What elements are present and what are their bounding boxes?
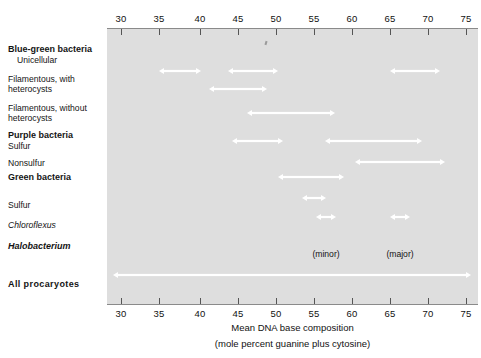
tick-label-bottom-75: 75: [451, 308, 481, 319]
range-row-filamentous-without-heterocysts: [107, 108, 478, 118]
range-arrow-chloroflexus: [306, 197, 322, 199]
range-arrow-all-procaryotes: [117, 274, 467, 276]
range-arrow-halobacterium-major: [394, 216, 406, 218]
axis-bottom-line: [107, 304, 478, 305]
category-label-column: Blue-green bacteria Unicellular Filament…: [0, 28, 107, 304]
range-arrow-purple-sulfur-1: [236, 140, 279, 142]
label-nonsulfur: Nonsulfur: [8, 158, 107, 169]
tick-bottom-35: [159, 298, 160, 304]
axis-caption-line-1: Mean DNA base composition: [107, 322, 478, 333]
tick-label-bottom-60: 60: [337, 308, 367, 319]
tick-top-75: [466, 29, 467, 35]
range-row-purple-sulfur: [107, 136, 478, 146]
range-row-all-procaryotes: [107, 270, 478, 280]
range-arrow-unicellular-2: [232, 70, 274, 72]
range-arrow-nonsulfur: [359, 161, 441, 163]
label-green-sulfur: Sulfur: [8, 200, 107, 211]
annotation-major: (major): [370, 249, 430, 259]
tick-top-35: [159, 29, 160, 35]
range-arrow-purple-sulfur-2: [329, 140, 418, 142]
label-green-bacteria: Green bacteria: [8, 172, 107, 183]
range-row-green-sulfur: [107, 172, 478, 182]
tick-label-top-60: 60: [337, 13, 367, 24]
range-row-halobacterium: [107, 212, 478, 222]
tick-bottom-40: [200, 298, 201, 304]
label-halobacterium: Halobacterium: [8, 241, 107, 252]
tick-label-top-75: 75: [451, 13, 481, 24]
tick-label-bottom-55: 55: [299, 308, 329, 319]
label-filamentous-with-1: Filamentous, with: [8, 74, 107, 85]
tick-label-bottom-50: 50: [261, 308, 291, 319]
tick-top-70: [428, 29, 429, 35]
tick-label-top-40: 40: [185, 13, 215, 24]
range-row-nonsulfur: [107, 157, 478, 167]
label-filamentous-without-2: heterocysts: [8, 113, 107, 124]
range-arrow-filamentous-with-heterocysts: [213, 88, 263, 90]
tick-label-bottom-45: 45: [223, 308, 253, 319]
label-purple-sulfur: Sulfur: [8, 141, 107, 152]
tick-top-30: [121, 29, 122, 35]
axis-top: 30 35 40 45 50 55 60 65 70 75: [107, 28, 478, 29]
tick-bottom-50: [276, 298, 277, 304]
range-arrow-filamentous-without-heterocysts: [251, 112, 331, 114]
annotation-minor: (minor): [296, 249, 356, 259]
tick-label-top-70: 70: [413, 13, 443, 24]
tick-top-65: [390, 29, 391, 35]
label-unicellular: Unicellular: [8, 55, 107, 66]
tick-top-40: [200, 29, 201, 35]
label-filamentous-with-2: heterocysts: [8, 84, 107, 95]
tick-label-bottom-35: 35: [144, 308, 174, 319]
tick-top-60: [352, 29, 353, 35]
range-row-filamentous-with-heterocysts: [107, 84, 478, 94]
tick-label-bottom-65: 65: [375, 308, 405, 319]
range-row-unicellular: [107, 66, 478, 76]
tick-label-top-55: 55: [299, 13, 329, 24]
label-blue-green-bacteria: Blue-green bacteria: [8, 44, 107, 55]
tick-top-55: [314, 29, 315, 35]
axis-top-line: [107, 28, 478, 29]
tick-bottom-60: [352, 298, 353, 304]
range-arrow-unicellular-1: [163, 70, 197, 72]
chart-root: 30 35 40 45 50 55 60 65 70 75 Blue-green…: [0, 0, 481, 358]
tick-label-top-45: 45: [223, 13, 253, 24]
tick-label-top-50: 50: [261, 13, 291, 24]
tick-bottom-65: [390, 298, 391, 304]
tick-label-top-65: 65: [375, 13, 405, 24]
tick-label-bottom-70: 70: [413, 308, 443, 319]
label-purple-bacteria: Purple bacteria: [8, 130, 107, 141]
tick-top-50: [276, 29, 277, 35]
tick-bottom-45: [238, 298, 239, 304]
tick-label-bottom-40: 40: [185, 308, 215, 319]
tick-bottom-30: [121, 298, 122, 304]
tick-bottom-70: [428, 298, 429, 304]
tick-bottom-55: [314, 298, 315, 304]
label-all-procaryotes: All procaryotes: [8, 279, 107, 290]
range-arrow-green-sulfur: [282, 176, 340, 178]
tick-label-top-30: 30: [106, 13, 136, 24]
label-filamentous-without-1: Filamentous, without: [8, 103, 107, 114]
axis-bottom: 30 35 40 45 50 55 60 65 70 75: [107, 304, 478, 305]
tick-bottom-75: [466, 298, 467, 304]
tick-label-bottom-30: 30: [106, 308, 136, 319]
tick-top-45: [238, 29, 239, 35]
range-arrow-unicellular-3: [394, 70, 436, 72]
axis-caption-line-2: (mole percent guanine plus cytosine): [107, 338, 478, 349]
range-row-chloroflexus: [107, 193, 478, 203]
label-chloroflexus: Chloroflexus: [8, 220, 107, 231]
range-arrow-halobacterium-minor: [320, 216, 332, 218]
tick-label-top-35: 35: [144, 13, 174, 24]
